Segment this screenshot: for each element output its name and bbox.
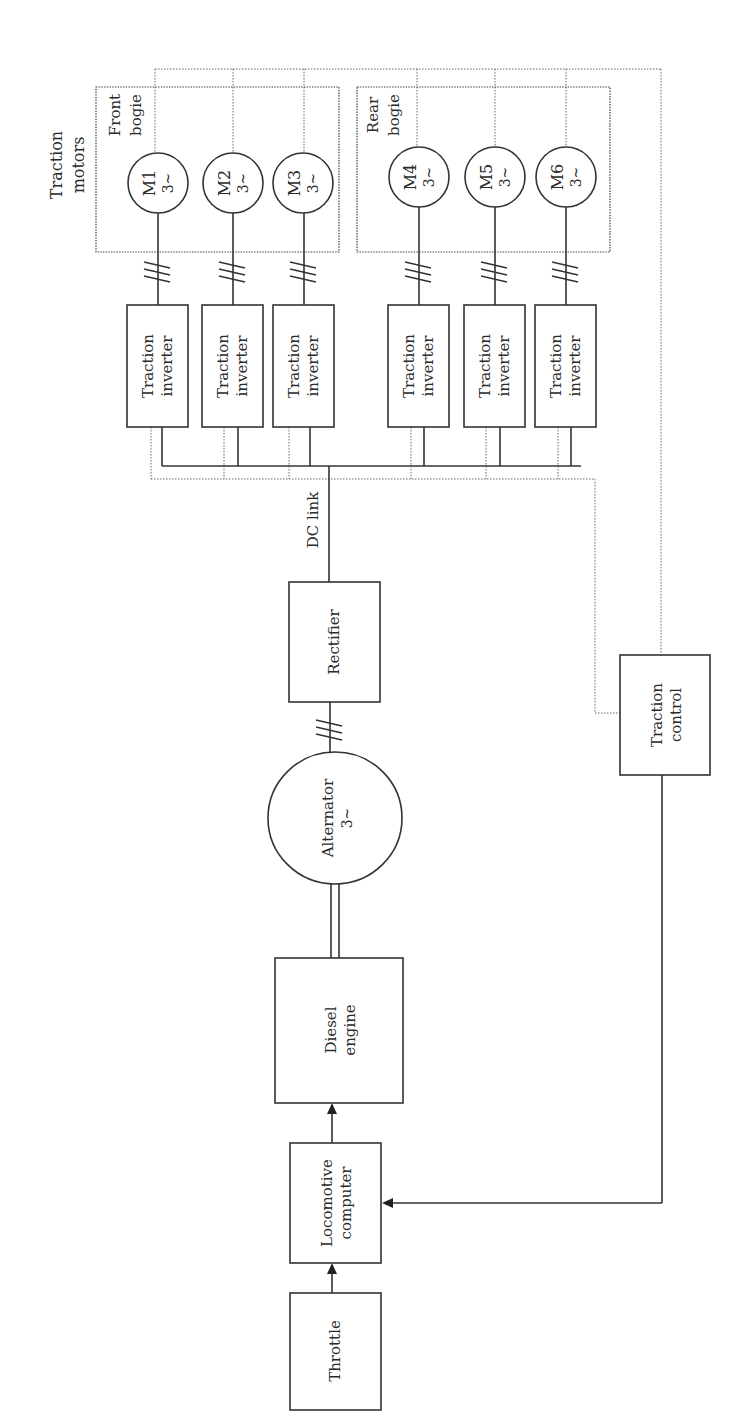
svg-text:Traction: Traction: [400, 334, 418, 398]
three-phase-markers: [144, 262, 578, 282]
alternator: Alternator 3~: [268, 752, 402, 884]
rear-bogie-label-2: bogie: [385, 94, 403, 136]
motor-inverter-links: [158, 207, 566, 305]
dc-link-bus: [162, 427, 581, 582]
svg-text:M1: M1: [140, 170, 159, 197]
arrow-computer-to-engine: [327, 1103, 337, 1143]
motor-m5: M5 3~: [465, 147, 525, 207]
traction-inverter-3: Traction inverter: [273, 305, 334, 427]
rear-bogie-label-1: Rear: [364, 96, 382, 133]
svg-text:3~: 3~: [497, 167, 513, 188]
dc-link-label: DC link: [304, 491, 322, 549]
svg-text:Diesel: Diesel: [322, 1006, 340, 1053]
motor-m1: M1 3~: [128, 153, 188, 213]
traction-inverter-6: Traction inverter: [535, 305, 596, 427]
svg-text:Traction: Traction: [139, 334, 157, 398]
svg-text:M3: M3: [285, 170, 304, 197]
arrow-traction-control-to-computer: [382, 775, 662, 1208]
front-bogie-label-2: bogie: [127, 94, 145, 136]
svg-text:3~: 3~: [160, 173, 176, 194]
svg-text:M2: M2: [215, 170, 234, 197]
svg-text:Traction: Traction: [285, 334, 303, 398]
motor-m4: M4 3~: [389, 147, 449, 207]
arrow-throttle-to-computer: [327, 1263, 337, 1293]
svg-text:3~: 3~: [568, 167, 584, 188]
traction-inverter-1: Traction inverter: [127, 305, 188, 427]
traction-inverter-5: Traction inverter: [464, 305, 525, 427]
svg-text:Alternator: Alternator: [319, 778, 337, 858]
svg-text:Throttle: Throttle: [326, 1320, 344, 1382]
throttle-block: Throttle: [290, 1293, 381, 1410]
mechanical-shaft: [331, 884, 339, 958]
traction-inverter-2: Traction inverter: [202, 305, 263, 427]
diesel-engine-block: Diesel engine: [275, 958, 403, 1103]
traction-control-block: Traction control: [620, 655, 710, 775]
front-bogie-label-1: Front: [106, 94, 124, 136]
svg-text:computer: computer: [337, 1166, 355, 1240]
svg-text:Traction: Traction: [214, 334, 232, 398]
svg-text:3~: 3~: [305, 173, 321, 194]
rectifier-block: Rectifier: [289, 582, 380, 702]
svg-text:Traction: Traction: [547, 334, 565, 398]
motor-m3: M3 3~: [273, 153, 333, 213]
svg-text:inverter: inverter: [419, 335, 437, 397]
locomotive-traction-diagram: Traction motors Front bogie Rear bogie M…: [0, 0, 744, 1420]
svg-text:inverter: inverter: [233, 335, 251, 397]
traction-motors-label-1: Traction: [47, 131, 66, 199]
three-phase-marker-alternator: [316, 720, 342, 740]
svg-text:Rectifier: Rectifier: [325, 608, 343, 674]
traction-inverter-4: Traction inverter: [388, 305, 449, 427]
traction-motors-label-2: motors: [69, 137, 88, 194]
svg-text:control: control: [667, 688, 685, 742]
svg-text:Traction: Traction: [476, 334, 494, 398]
svg-text:M5: M5: [477, 164, 496, 191]
svg-text:inverter: inverter: [304, 335, 322, 397]
svg-text:Traction: Traction: [648, 683, 666, 747]
svg-text:inverter: inverter: [158, 335, 176, 397]
svg-text:engine: engine: [341, 1004, 359, 1056]
motor-m6: M6 3~: [536, 147, 596, 207]
svg-text:inverter: inverter: [495, 335, 513, 397]
svg-text:M6: M6: [548, 164, 567, 191]
svg-text:M4: M4: [401, 164, 420, 191]
inverter-feedback-bus: [151, 427, 620, 713]
svg-text:inverter: inverter: [566, 335, 584, 397]
svg-text:3~: 3~: [235, 173, 251, 194]
svg-text:3~: 3~: [421, 167, 437, 188]
svg-text:Locomotive: Locomotive: [318, 1159, 336, 1247]
svg-text:3~: 3~: [339, 808, 355, 829]
motor-m2: M2 3~: [203, 153, 263, 213]
locomotive-computer-block: Locomotive computer: [290, 1143, 381, 1263]
